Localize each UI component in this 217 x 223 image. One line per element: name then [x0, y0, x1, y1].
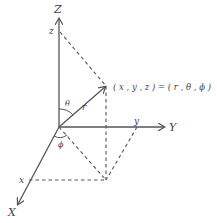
z-tick-label: z: [48, 26, 54, 36]
xy-plane-radius-line: [59, 127, 106, 180]
y-tick-label: y: [133, 116, 140, 126]
z-projection-line: [60, 32, 106, 86]
theta-arc: [59, 109, 73, 115]
r-label: r: [82, 102, 87, 112]
theta-label: θ: [65, 99, 70, 108]
phi-label: ϕ: [58, 140, 64, 149]
y-axis-label: Y: [169, 121, 178, 134]
phi-arc: [54, 135, 67, 138]
point-coordinates-label: ( x , y , z ) = ( r , θ , ϕ ): [113, 82, 211, 92]
spherical-coordinates-diagram: Z Y X z y x θ r ϕ ( x , y , z ) = ( r , …: [0, 0, 217, 223]
z-axis-label: Z: [53, 3, 62, 16]
y-projection-line: [106, 127, 137, 180]
x-tick-label: x: [19, 175, 24, 185]
x-axis: [18, 127, 59, 204]
x-axis-label: X: [7, 206, 17, 219]
